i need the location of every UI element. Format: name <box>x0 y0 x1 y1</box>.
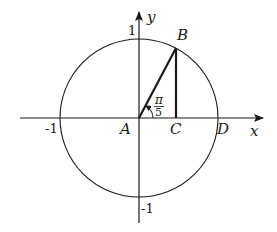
angle-numerator: π <box>154 93 164 107</box>
x-axis-label: x <box>250 122 259 140</box>
angle-denominator: 5 <box>155 106 162 119</box>
tick-x-neg1: -1 <box>45 121 58 136</box>
tick-y-1: 1 <box>128 23 136 38</box>
point-label-D: D <box>216 120 229 138</box>
unit-circle-diagram: y x 1 -1 -1 A B C D π 5 <box>0 0 277 232</box>
angle-arc <box>146 106 153 118</box>
y-axis-label: y <box>146 8 156 26</box>
point-label-C: C <box>170 120 182 138</box>
point-label-A: A <box>118 120 131 138</box>
point-label-B: B <box>176 26 188 44</box>
tick-y-neg1: -1 <box>141 201 154 216</box>
